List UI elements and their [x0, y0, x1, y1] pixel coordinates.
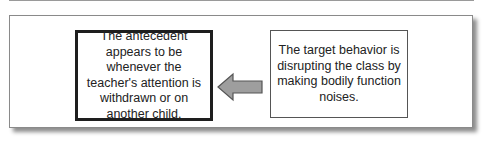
target-behavior-text: The target behavior is disrupting the cl… [277, 43, 401, 105]
left-arrow-icon [216, 72, 264, 102]
target-behavior-box: The target behavior is disrupting the cl… [270, 30, 408, 118]
antecedent-text: The antecedent appears to be whenever th… [84, 29, 204, 122]
top-divider [9, 0, 474, 1]
antecedent-box: The antecedent appears to be whenever th… [75, 30, 213, 121]
